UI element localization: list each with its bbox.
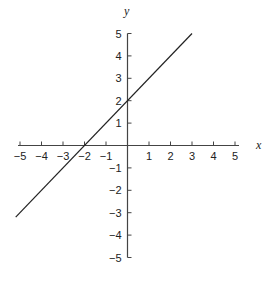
series-line <box>16 34 192 218</box>
y-axis-label: y <box>123 4 130 18</box>
y-tick-label: −3 <box>109 207 122 219</box>
x-tick-label: −4 <box>35 150 48 162</box>
x-tick-label: 2 <box>167 150 173 162</box>
series <box>16 34 192 218</box>
x-axis-label: x <box>255 138 262 152</box>
y-tick-label: 5 <box>115 28 121 40</box>
x-tick-label: −1 <box>100 150 113 162</box>
y-tick-label: 3 <box>115 72 121 84</box>
x-tick-label: −2 <box>78 150 91 162</box>
axes <box>18 34 239 258</box>
line-graph: −5−4−3−2−112345−5−4−3−2−112345 x y <box>0 0 269 282</box>
y-tick-label: 4 <box>115 50 121 62</box>
y-tick-label: −5 <box>109 252 122 264</box>
x-tick-label: −3 <box>57 150 70 162</box>
y-tick-label: −1 <box>109 162 122 174</box>
x-tick-label: 5 <box>232 150 238 162</box>
y-tick-label: 2 <box>115 95 121 107</box>
x-tick-label: −5 <box>14 150 27 162</box>
x-tick-label: 1 <box>146 150 152 162</box>
y-tick-label: −4 <box>109 229 122 241</box>
y-tick-label: 1 <box>115 117 121 129</box>
x-tick-label: 4 <box>210 150 216 162</box>
y-tick-label: −2 <box>109 184 122 196</box>
x-tick-label: 3 <box>189 150 195 162</box>
